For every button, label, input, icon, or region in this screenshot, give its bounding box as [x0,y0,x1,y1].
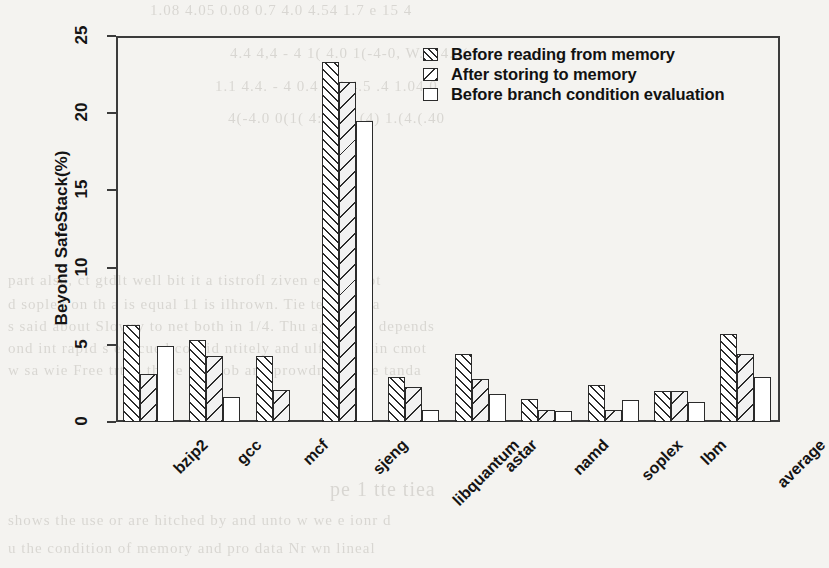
bar-group [322,36,373,422]
legend-item: After storing to memory [423,64,724,84]
legend-label: Before branch condition evaluation [451,85,724,104]
bar-group [189,36,240,422]
x-tick-label: lbm [698,436,731,469]
y-tick-label: 25 [72,15,92,55]
bar [223,397,240,422]
bar [754,377,771,422]
bar [455,354,472,422]
bar [720,334,737,422]
chart-legend: Before reading from memoryAfter storing … [415,40,732,109]
x-tick-label: bzip2 [170,436,212,478]
y-axis-title: Beyond SafeStack(%) [52,78,72,398]
x-tick-label: mcf [299,436,332,469]
bar [521,399,538,422]
x-tick-label: namd [569,436,612,479]
bar [422,410,439,422]
bar [688,402,705,422]
bar [671,391,688,422]
bar [737,354,754,422]
y-tick-mark [107,267,116,269]
bar [206,356,223,422]
bar [489,394,506,422]
legend-swatch-icon [423,48,438,61]
bar [588,385,605,422]
bar [256,356,273,422]
x-tick-label: sjeng [370,436,412,478]
legend-swatch-icon [423,88,438,101]
x-tick-label: gcc [233,436,265,468]
y-tick-label: 20 [72,92,92,132]
y-tick-label: 5 [72,324,92,364]
legend-item: Before branch condition evaluation [423,84,724,104]
bar [538,410,555,422]
legend-label: Before reading from memory [451,45,675,64]
bar-group [256,36,307,422]
y-tick-mark [107,112,116,114]
bar [472,379,489,422]
y-tick-label: 0 [72,401,92,441]
legend-swatch-icon [423,68,438,81]
y-tick-label: 15 [72,169,92,209]
bar [356,121,373,422]
bar [339,82,356,422]
y-tick-mark [107,421,116,423]
y-tick-mark [107,35,116,37]
x-tick-label: average [774,436,829,492]
bar [273,390,290,422]
bar [322,62,339,422]
bar [622,400,639,422]
legend-item: Before reading from memory [423,44,724,64]
bar-group [123,36,174,422]
y-tick-label: 10 [72,247,92,287]
y-tick-mark [107,189,116,191]
bar [189,340,206,422]
y-tick-mark [107,344,116,346]
legend-label: After storing to memory [451,65,637,84]
bar [140,374,157,422]
bar [555,411,572,422]
bar [157,346,174,422]
bar [654,391,671,422]
x-tick-label: soplex [638,436,687,485]
bar [123,325,140,422]
bar [388,377,405,422]
bar [405,387,422,423]
bar [605,410,622,422]
